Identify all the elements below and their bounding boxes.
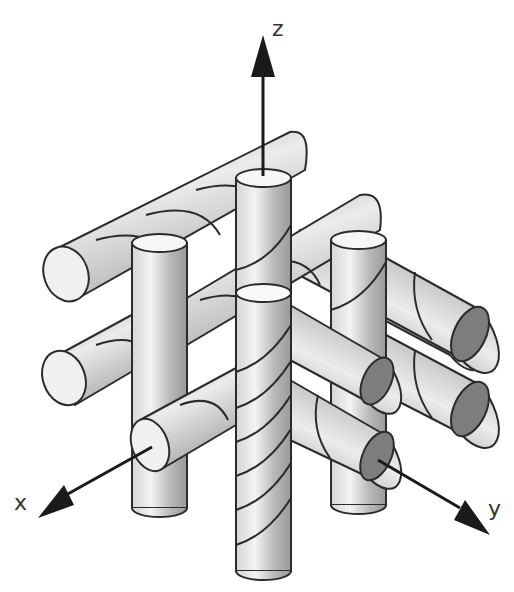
- rod-lattice-diagram: [0, 0, 514, 592]
- x-axis-arrowhead-icon: [38, 485, 74, 518]
- z-rod-back-left: [132, 234, 187, 517]
- x-axis-label: x: [14, 492, 27, 514]
- y-axis-arrowhead-icon: [454, 500, 490, 535]
- z-rod-front-center: [236, 284, 291, 580]
- y-axis-label: y: [488, 498, 501, 520]
- z-rod-back-center: [236, 169, 291, 298]
- z-axis-arrowhead-icon: [251, 35, 275, 77]
- y-axis: [378, 460, 490, 535]
- z-axis-label: z: [272, 18, 284, 40]
